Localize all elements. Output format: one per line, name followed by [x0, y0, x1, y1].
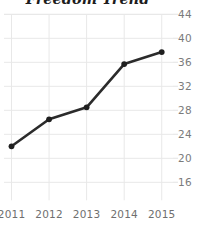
y-axis-tick-label: 24 — [178, 129, 197, 140]
plot-area: 4440363228242016 20112012201320142015 — [0, 0, 197, 227]
data-point-marker — [46, 116, 52, 122]
horizontal-gridlines — [4, 14, 173, 182]
data-point-marker — [159, 49, 165, 55]
x-axis-tick-label: 2013 — [67, 209, 107, 220]
y-axis-tick-label: 28 — [178, 105, 197, 116]
y-axis-tick-label: 20 — [178, 153, 197, 164]
x-axis-tick-label: 2012 — [29, 209, 69, 220]
y-axis-tick-label: 16 — [178, 177, 197, 188]
y-axis-tick-label: 44 — [178, 9, 197, 20]
y-axis-tick-label: 40 — [178, 33, 197, 44]
data-point-marker — [121, 61, 127, 67]
data-point-marker — [84, 104, 90, 110]
plot-svg — [0, 0, 197, 227]
x-axis-tick-label: 2011 — [0, 209, 32, 220]
x-axis-tick-label: 2014 — [104, 209, 144, 220]
y-axis-tick-label: 32 — [178, 81, 197, 92]
y-axis-tick-label: 36 — [178, 57, 197, 68]
line-chart: Freedom Trend 4440363228242016 201120122… — [0, 0, 197, 227]
data-point-marker — [9, 143, 15, 149]
x-axis-tick-label: 2015 — [142, 209, 182, 220]
